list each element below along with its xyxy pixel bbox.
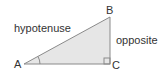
vertex-label-b: B <box>106 5 113 16</box>
vertex-label-c: C <box>112 60 120 71</box>
opposite-label: opposite <box>116 35 158 46</box>
vertex-label-a: A <box>14 59 21 70</box>
right-triangle-diagram: A B C hypotenuse opposite <box>0 0 165 72</box>
hypotenuse-label: hypotenuse <box>14 23 71 34</box>
